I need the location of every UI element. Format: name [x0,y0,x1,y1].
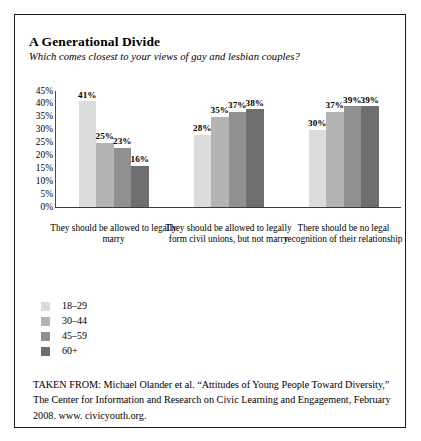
x-axis-line [55,207,401,208]
bar [361,106,379,207]
legend-label: 30–44 [62,314,87,328]
bar-value-label: 37% [326,101,344,110]
legend-item: 30–44 [41,314,181,329]
legend-label: 60+ [62,344,78,358]
y-axis-tick-label: 45% [36,87,53,96]
y-axis-tick-label: 35% [36,112,53,121]
bar-value-label: 16% [131,155,149,164]
legend-swatch [41,302,50,311]
y-axis-tick-label: 15% [36,164,53,173]
figure-box: A Generational Divide Which comes closes… [14,14,406,428]
bar [326,112,344,207]
bar-value-label: 28% [193,124,211,133]
bar-column: 25% [96,143,114,207]
bar [309,130,327,207]
bar [96,143,114,207]
bar-column: 28% [194,135,212,207]
x-axis-category-label: They should be allowed to legally form c… [163,223,294,246]
legend-label: 18–29 [62,299,87,313]
bar [344,106,362,207]
chart-question: Which comes closest to your views of gay… [29,51,300,62]
y-axis-tick-label: 10% [36,177,53,186]
x-axis-category-label: They should be allowed to legally marry [48,223,179,246]
bar-column: 16% [131,166,149,207]
bar-column: 23% [114,148,132,207]
bar-value-label: 25% [96,132,114,141]
bar-group: 30%37%39%39% [309,91,379,207]
bar-column: 37% [229,112,247,207]
legend-swatch [41,317,50,326]
bar-column: 37% [326,112,344,207]
bar-value-label: 35% [211,106,229,115]
x-axis-category-label: There should be no legal recognition of … [278,223,409,246]
legend-item: 60+ [41,344,181,359]
bar-column: 30% [309,130,327,207]
y-axis-tick-label: 5% [41,190,54,199]
plot-area: 41%25%23%16%28%35%37%38%30%37%39%39% [56,91,401,207]
bar-value-label: 37% [228,101,246,110]
bar-value-label: 23% [113,137,131,146]
bar-value-label: 38% [246,99,264,108]
y-axis-tick-label: 40% [36,99,53,108]
chart-legend: 18–2930–4445–5960+ [41,299,181,359]
bar-column: 39% [361,106,379,207]
bar-column: 35% [211,117,229,207]
bar-group: 28%35%37%38% [194,91,264,207]
y-axis: 45%40%35%30%25%20%15%10%5%0% [15,91,53,207]
bar [211,117,229,207]
legend-swatch [41,347,50,356]
legend-label: 45–59 [62,329,87,343]
source-note: TAKEN FROM: Michael Olander et al. “Atti… [33,377,391,423]
bar-column: 38% [246,109,264,207]
legend-swatch [41,332,50,341]
bar-value-label: 39% [361,96,379,105]
bar [114,148,132,207]
bar-group: 41%25%23%16% [79,91,149,207]
page-title: A Generational Divide [29,34,160,50]
y-axis-tick-label: 25% [36,138,53,147]
bar-value-label: 30% [308,119,326,128]
bar [79,101,97,207]
bar-chart: 45%40%35%30%25%20%15%10%5%0% 41%25%23%16… [15,91,405,221]
legend-item: 18–29 [41,299,181,314]
bar [194,135,212,207]
y-axis-tick-label: 20% [36,151,53,160]
bar-column: 39% [344,106,362,207]
legend-item: 45–59 [41,329,181,344]
bar [229,112,247,207]
bar-value-label: 39% [343,96,361,105]
bar-column: 41% [79,101,97,207]
bar-value-label: 41% [78,91,96,100]
bar [246,109,264,207]
y-axis-tick-label: 0% [41,203,54,212]
x-axis-category-labels: They should be allowed to legally marryT… [56,223,401,279]
bar [131,166,149,207]
y-axis-tick-label: 30% [36,125,53,134]
